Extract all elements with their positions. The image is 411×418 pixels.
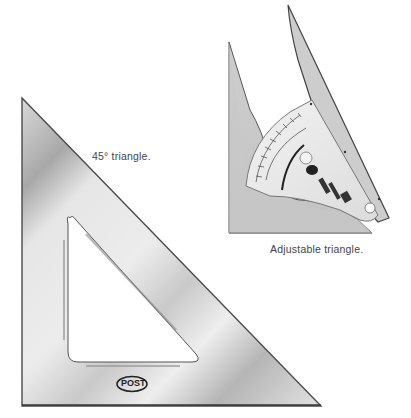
caption-45-triangle: 45° triangle. (92, 150, 151, 162)
adjustable-triangle-figure (229, 5, 389, 233)
post-logo-text: POST (121, 378, 146, 388)
illustration-canvas (0, 0, 411, 418)
caption-adjustable-triangle: Adjustable triangle. (270, 243, 363, 255)
